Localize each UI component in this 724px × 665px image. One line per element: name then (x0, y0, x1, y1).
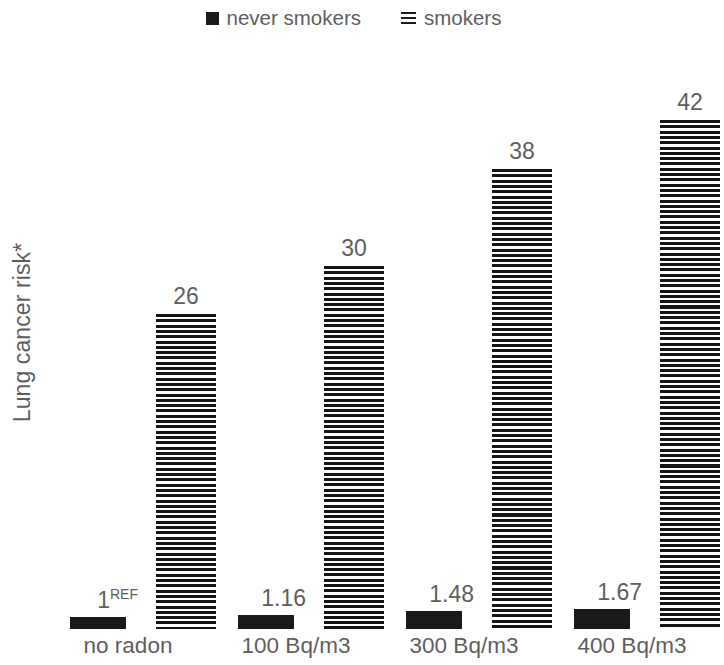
bar-value-smokers-400-bq: 42 (650, 91, 724, 114)
x-axis-label-300-bq: 300 Bq/m3 (379, 632, 549, 660)
filled-square-icon (206, 12, 219, 25)
x-axis-label-no-radon: no radon (43, 632, 213, 660)
bar-never-smokers-100-bq (238, 615, 294, 629)
plot-area: 1REF 26 1.16 30 1.48 38 1.67 42 (44, 36, 707, 629)
legend-label-smokers: smokers (424, 8, 501, 29)
bar-value-smokers-no-radon: 26 (146, 285, 226, 308)
bar-value-never-smokers-no-radon: 1REF (58, 589, 138, 612)
legend-item-never-smokers: never smokers (206, 8, 361, 29)
bar-smokers-300-bq (492, 169, 552, 629)
bar-value-superscript: REF (110, 586, 138, 602)
y-axis-title-text: Lung cancer risk* (10, 243, 37, 422)
x-axis-label-100-bq: 100 Bq/m3 (211, 632, 381, 660)
bar-never-smokers-400-bq (574, 609, 630, 629)
y-axis-title: Lung cancer risk* (2, 0, 44, 665)
bar-value-number: 1 (97, 587, 110, 613)
bar-smokers-100-bq (324, 266, 384, 629)
x-axis-label-400-bq: 400 Bq/m3 (547, 632, 717, 660)
bar-value-smokers-300-bq: 38 (482, 140, 562, 163)
chart-legend: never smokers smokers (0, 0, 707, 36)
bar-group-100-bq: 1.16 30 (216, 50, 366, 629)
bar-smokers-400-bq (660, 120, 720, 629)
bar-value-never-smokers-300-bq: 1.48 (384, 583, 474, 606)
bar-value-never-smokers-100-bq: 1.16 (216, 587, 306, 610)
legend-label-never-smokers: never smokers (227, 8, 361, 29)
legend-item-smokers: smokers (401, 8, 501, 29)
bar-value-smokers-100-bq: 30 (314, 237, 394, 260)
x-axis-labels: no radon 100 Bq/m3 300 Bq/m3 400 Bq/m3 (44, 632, 707, 665)
bar-group-300-bq: 1.48 38 (384, 50, 534, 629)
bar-smokers-no-radon (156, 314, 216, 629)
bar-never-smokers-no-radon (70, 617, 126, 629)
bar-group-400-bq: 1.67 42 (552, 50, 702, 629)
bar-value-never-smokers-400-bq: 1.67 (552, 581, 642, 604)
bar-group-no-radon: 1REF 26 (48, 50, 198, 629)
bar-never-smokers-300-bq (406, 611, 462, 629)
horizontal-lines-icon (401, 12, 416, 25)
